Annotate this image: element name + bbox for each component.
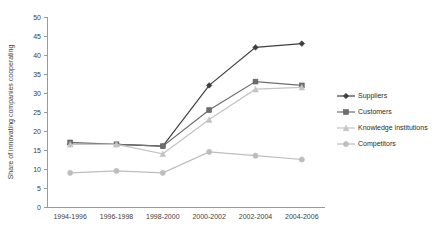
legend-item-knowledge-institutions[interactable]: Knowledge institutions bbox=[337, 124, 428, 132]
x-tick-label: 2004-2006 bbox=[285, 213, 319, 220]
legend-label: Knowledge institutions bbox=[358, 124, 428, 132]
legend-item-customers[interactable]: Customers bbox=[337, 108, 392, 115]
x-tick-label: 1998-2000 bbox=[146, 213, 180, 220]
y-axis-title: Share of innovating companies cooperatin… bbox=[7, 45, 15, 180]
plot-area: 05101520253035404550 1994-19961996-19981… bbox=[0, 0, 445, 252]
y-tick-label: 30 bbox=[33, 90, 41, 97]
y-tick-label: 50 bbox=[33, 14, 41, 21]
series-layer bbox=[67, 41, 304, 176]
x-tick-label: 2000-2002 bbox=[192, 213, 226, 220]
legend-item-suppliers[interactable]: Suppliers bbox=[337, 92, 388, 100]
legend-label: Competitors bbox=[358, 140, 396, 148]
data-point bbox=[253, 79, 258, 84]
x-axis: 1994-19961996-19981998-20002000-20022002… bbox=[47, 207, 325, 220]
y-tick-label: 0 bbox=[37, 204, 41, 211]
series-knowledge-institutions bbox=[67, 85, 304, 157]
legend-item-competitors[interactable]: Competitors bbox=[337, 140, 396, 148]
legend-label: Customers bbox=[358, 108, 392, 115]
x-tick-label: 1994-1996 bbox=[53, 213, 87, 220]
legend-label: Suppliers bbox=[358, 92, 388, 100]
y-tick-label: 20 bbox=[33, 128, 41, 135]
chart-canvas: 05101520253035404550 1994-19961996-19981… bbox=[0, 0, 445, 252]
data-point bbox=[160, 170, 165, 175]
series-line bbox=[70, 152, 302, 173]
line-chart: 05101520253035404550 1994-19961996-19981… bbox=[0, 0, 445, 252]
data-point bbox=[114, 168, 119, 173]
series-customers bbox=[68, 79, 304, 148]
data-point bbox=[68, 170, 73, 175]
x-tick-label: 2002-2004 bbox=[239, 213, 273, 220]
data-point bbox=[299, 41, 305, 47]
y-tick-label: 35 bbox=[33, 71, 41, 78]
data-point bbox=[299, 157, 304, 162]
data-point bbox=[207, 108, 212, 113]
y-tick-label: 15 bbox=[33, 147, 41, 154]
y-tick-label: 5 bbox=[37, 185, 41, 192]
chart-legend: SuppliersCustomersKnowledge institutions… bbox=[337, 92, 428, 148]
y-tick-label: 45 bbox=[33, 33, 41, 40]
x-tick-label: 1996-1998 bbox=[100, 213, 134, 220]
data-point bbox=[160, 144, 165, 149]
series-competitors bbox=[68, 149, 305, 175]
y-tick-label: 10 bbox=[33, 166, 41, 173]
y-axis: 05101520253035404550 bbox=[33, 14, 47, 211]
series-line bbox=[70, 44, 302, 147]
legend-swatch-marker bbox=[343, 93, 349, 99]
series-suppliers bbox=[67, 41, 304, 149]
y-tick-label: 40 bbox=[33, 52, 41, 59]
legend-swatch-marker bbox=[343, 141, 348, 146]
y-tick-label: 25 bbox=[33, 109, 41, 116]
data-point bbox=[207, 149, 212, 154]
data-point bbox=[253, 153, 258, 158]
legend-swatch-marker bbox=[344, 110, 349, 115]
series-line bbox=[70, 87, 302, 154]
